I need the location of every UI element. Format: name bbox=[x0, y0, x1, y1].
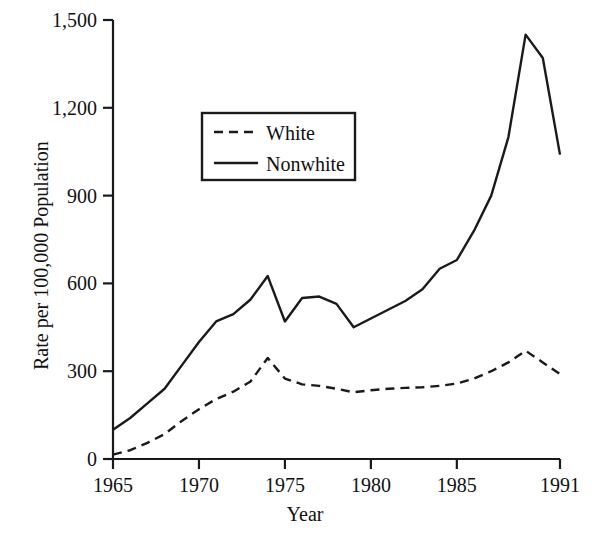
legend-label-nonwhite: Nonwhite bbox=[266, 153, 345, 176]
x-tick-label: 1965 bbox=[68, 475, 158, 495]
y-axis-title: Rate per 100,000 Population bbox=[30, 141, 53, 370]
x-tick-label: 1985 bbox=[412, 475, 502, 495]
x-tick-label: 1970 bbox=[154, 475, 244, 495]
x-tick-label: 1980 bbox=[326, 475, 416, 495]
y-tick-label: 300 bbox=[0, 361, 97, 381]
y-tick-label: 1,500 bbox=[0, 10, 97, 30]
x-tick-label: 1991 bbox=[515, 475, 605, 495]
y-axis-ticks bbox=[103, 20, 113, 459]
y-tick-label: 900 bbox=[0, 186, 97, 206]
y-tick-label: 600 bbox=[0, 273, 97, 293]
y-tick-label: 0 bbox=[0, 449, 97, 469]
legend-label-white: White bbox=[266, 122, 315, 145]
chart-figure: White Nonwhite Rate per 100,000 Populati… bbox=[0, 0, 610, 542]
x-axis-title: Year bbox=[0, 503, 610, 526]
data-series-group bbox=[113, 35, 560, 455]
x-axis-ticks bbox=[113, 459, 560, 469]
axis-lines bbox=[113, 20, 560, 459]
y-tick-label: 1,200 bbox=[0, 98, 97, 118]
x-tick-label: 1975 bbox=[240, 475, 330, 495]
